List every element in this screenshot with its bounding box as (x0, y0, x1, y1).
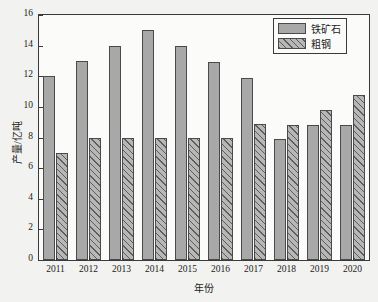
x-tick-label: 2020 (333, 264, 373, 274)
legend-swatch-icon (278, 23, 306, 34)
y-axis-title: 产量/亿吨 (9, 98, 24, 188)
x-tick-mark (221, 256, 222, 260)
legend-item-粗钢[interactable]: 粗钢 (278, 37, 341, 50)
y-tick-label: 0 (28, 253, 33, 263)
y-tick-label: 16 (24, 8, 34, 18)
bar-chart: 产量/亿吨 0246810121416 20112012201320142015… (0, 0, 378, 302)
y-tick-label: 8 (28, 131, 33, 141)
x-axis-title: 年份 (38, 280, 370, 295)
y-tick-label: 10 (24, 100, 34, 110)
y-tick-label: 12 (24, 69, 34, 79)
y-tick-label: 14 (24, 39, 34, 49)
legend-label: 铁矿石 (311, 21, 341, 36)
legend-label: 粗钢 (311, 36, 331, 51)
y-tick-label: 6 (28, 161, 33, 171)
y-tick-mark (39, 260, 43, 261)
x-tick-mark (254, 256, 255, 260)
x-tick-mark (287, 256, 288, 260)
x-tick-mark (353, 256, 354, 260)
legend-swatch-icon (278, 38, 306, 49)
x-tick-mark (188, 256, 189, 260)
x-tick-mark (155, 256, 156, 260)
x-tick-mark (89, 256, 90, 260)
x-tick-mark (320, 256, 321, 260)
y-tick-label: 2 (28, 222, 33, 232)
y-tick-label: 4 (28, 192, 33, 202)
legend-item-铁矿石[interactable]: 铁矿石 (278, 22, 341, 35)
x-tick-mark (56, 256, 57, 260)
legend: 铁矿石粗钢 (273, 18, 347, 54)
x-tick-mark (122, 256, 123, 260)
